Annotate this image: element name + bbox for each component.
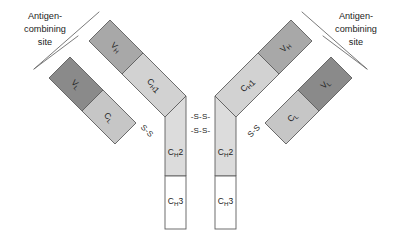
- antigen-site-left-line1: Antigen-: [28, 11, 62, 21]
- antigen-site-label-right: Antigen- combining site: [335, 11, 377, 47]
- bond-light-heavy-right: S-S: [246, 123, 262, 139]
- bond-light-heavy-left: S-S: [139, 123, 155, 139]
- antigen-site-left-line2: combining: [24, 24, 66, 34]
- antibody-diagram: VL CL VH CH1 CH2 CH3: [0, 0, 401, 244]
- light-heavy-disulfide-right: S-S: [246, 123, 262, 139]
- light-heavy-disulfide-left: S-S: [139, 123, 155, 139]
- heavy-chain-right-lower: CH2 CH3: [215, 96, 236, 229]
- hinge-disulfide-bonds: -S-S- -S-S-: [191, 112, 211, 135]
- heavy-chain-left-lower: CH2 CH3: [165, 96, 186, 229]
- antigen-site-right-line1: Antigen-: [339, 11, 373, 21]
- antigen-site-left-line3: site: [38, 37, 52, 47]
- antibody-figure: VL CL VH CH1 CH2 CH3: [0, 0, 401, 244]
- antigen-site-label-left: Antigen- combining site: [24, 11, 66, 47]
- antigen-site-right-line3: site: [349, 37, 363, 47]
- caption-strip: [0, 235, 401, 244]
- antigen-site-right-line2: combining: [335, 24, 377, 34]
- bond-hinge-lower: -S-S-: [191, 126, 211, 135]
- bond-hinge-upper: -S-S-: [191, 112, 211, 121]
